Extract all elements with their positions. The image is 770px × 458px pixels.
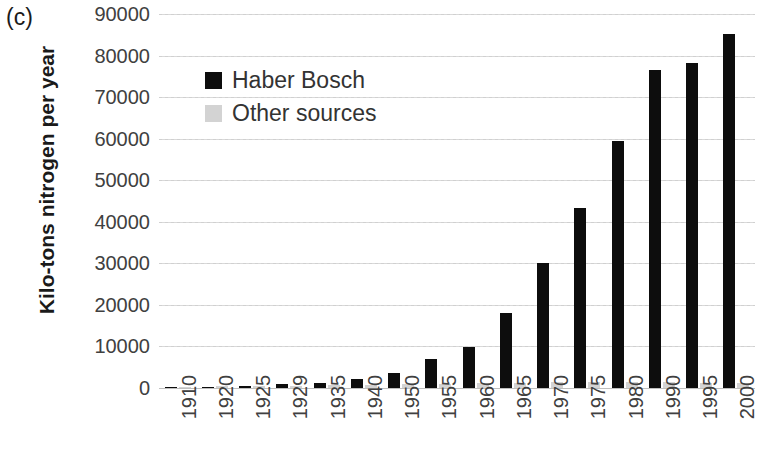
bar-haber-bosch-1925 (239, 386, 251, 388)
bar-haber-bosch-1920 (202, 387, 214, 388)
bar-group: 1980 (606, 14, 643, 388)
bar-group: 1995 (681, 14, 718, 388)
legend-item: Haber Bosch (205, 66, 376, 94)
bar-haber-bosch-1975 (574, 208, 586, 388)
y-axis-title: Kilo-tons nitrogen per year (35, 25, 59, 335)
bar-group: 1975 (569, 14, 606, 388)
y-axis-tick-label: 90000 (94, 3, 150, 26)
y-axis-tick-label: 0 (139, 377, 150, 400)
bar-haber-bosch-1960 (463, 347, 475, 388)
y-axis-tick-label: 60000 (94, 127, 150, 150)
legend-swatch-icon (205, 72, 222, 89)
bar-haber-bosch-1965 (500, 313, 512, 388)
bar-group: 1910 (159, 14, 196, 388)
bar-haber-bosch-1970 (537, 263, 549, 388)
bar-group: 1990 (643, 14, 680, 388)
bar-haber-bosch-1980 (612, 141, 624, 388)
chart-figure: (c) Kilo-tons nitrogen per year 90000800… (0, 0, 770, 458)
bar-haber-bosch-1929 (276, 384, 288, 388)
bar-group: 1965 (494, 14, 531, 388)
y-axis-tick-label: 80000 (94, 44, 150, 67)
y-axis-tick-label: 10000 (94, 335, 150, 358)
bar-group: 1960 (457, 14, 494, 388)
bar-haber-bosch-1910 (165, 387, 177, 388)
legend-swatch-icon (205, 105, 222, 122)
bar-group: 1970 (532, 14, 569, 388)
bar-group: 2000 (718, 14, 755, 388)
x-axis-tick-label: 2000 (736, 375, 759, 420)
chart-legend: Haber BoschOther sources (205, 66, 376, 132)
legend-label: Other sources (232, 99, 376, 127)
bar-group: 1955 (420, 14, 457, 388)
bar-haber-bosch-1940 (351, 379, 363, 388)
y-axis-tick-label: 20000 (94, 293, 150, 316)
y-axis-tick-label: 30000 (94, 252, 150, 275)
bar-group: 1950 (383, 14, 420, 388)
bar-haber-bosch-1935 (314, 383, 326, 388)
bar-haber-bosch-2000 (723, 34, 735, 388)
bar-haber-bosch-1990 (649, 70, 661, 388)
y-axis-tick-label: 40000 (94, 210, 150, 233)
panel-label: (c) (6, 6, 33, 29)
bar-haber-bosch-1995 (686, 63, 698, 388)
y-axis-tick-label: 50000 (94, 169, 150, 192)
legend-item: Other sources (205, 99, 376, 127)
y-axis-tick-label: 70000 (94, 86, 150, 109)
bar-haber-bosch-1950 (388, 373, 400, 388)
bar-haber-bosch-1955 (425, 359, 437, 388)
legend-label: Haber Bosch (232, 66, 365, 94)
